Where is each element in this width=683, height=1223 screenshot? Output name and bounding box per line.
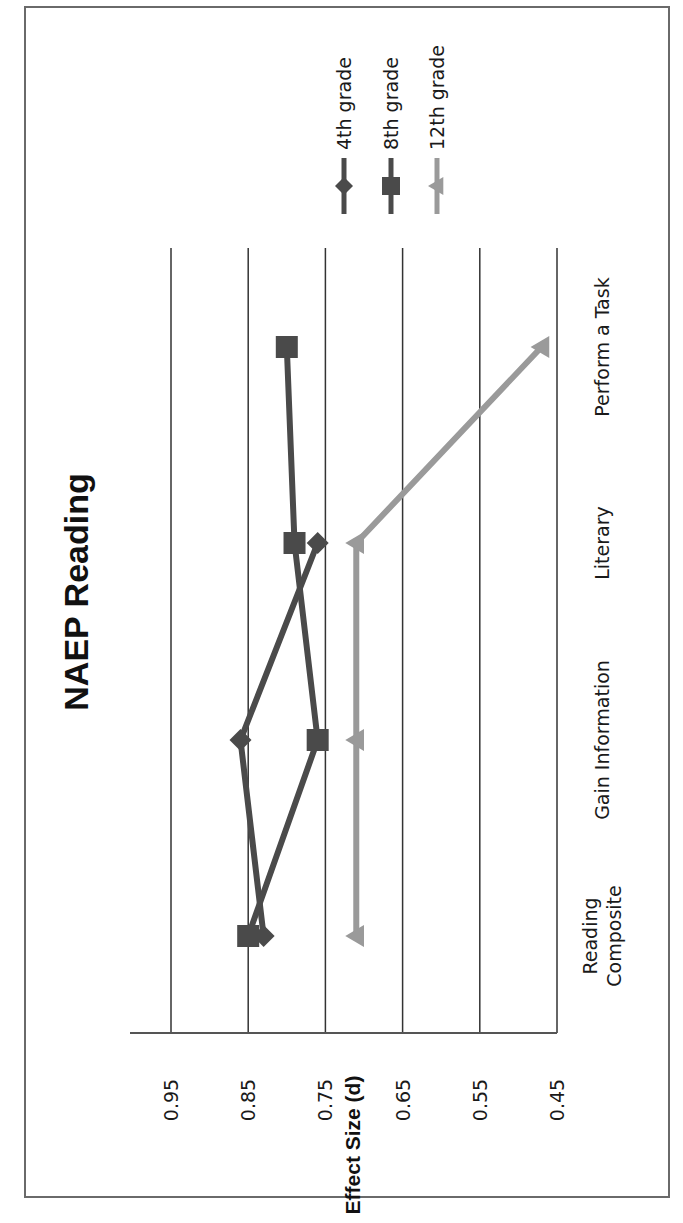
square-marker xyxy=(276,336,298,358)
y-tick-label: 0.75 xyxy=(314,1079,336,1121)
square-marker xyxy=(284,532,306,554)
series-line xyxy=(248,347,317,936)
y-tick-label: 0.85 xyxy=(237,1079,259,1121)
chart-title: NAEP Reading xyxy=(57,473,95,710)
diamond-marker xyxy=(335,177,353,195)
category-label: Reading xyxy=(579,897,601,974)
legend-item: 4th grade xyxy=(333,57,355,214)
category-label: Composite xyxy=(603,885,625,986)
legend-label: 8th grade xyxy=(380,57,402,150)
category-labels: ReadingCompositeGain InformationLiterary… xyxy=(579,277,625,986)
category-label: Literary xyxy=(591,506,613,580)
category-label: Perform a Task xyxy=(591,277,613,416)
gridlines xyxy=(171,248,557,1033)
category-label: Gain Information xyxy=(591,660,613,820)
series-12th-grade xyxy=(345,336,549,947)
legend-item: 12th grade xyxy=(426,45,448,214)
series-line xyxy=(240,543,317,936)
legend-label: 12th grade xyxy=(426,45,448,150)
line-chart: 0.950.850.750.650.550.45Effect Size (d)N… xyxy=(0,0,683,1223)
square-marker xyxy=(307,729,329,751)
y-tick-label: 0.45 xyxy=(546,1079,568,1121)
value-axis-ticks: 0.950.850.750.650.550.45 xyxy=(160,1079,568,1121)
legend: 4th grade8th grade12th grade xyxy=(333,45,448,214)
y-tick-label: 0.95 xyxy=(160,1079,182,1121)
y-tick-label: 0.55 xyxy=(469,1079,491,1121)
y-tick-label: 0.65 xyxy=(392,1079,414,1121)
square-marker xyxy=(237,925,259,947)
y-axis-label: Effect Size (d) xyxy=(341,1076,364,1215)
legend-item: 8th grade xyxy=(380,57,402,214)
square-marker xyxy=(382,177,400,195)
series-8th-grade xyxy=(237,336,328,947)
series-line xyxy=(356,347,541,936)
legend-label: 4th grade xyxy=(333,57,355,150)
